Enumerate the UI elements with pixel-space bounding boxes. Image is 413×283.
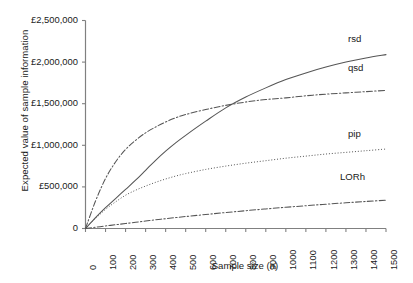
chart-figure: Expected value of sample information 0£5… <box>0 0 413 283</box>
series-line-rsd <box>86 55 387 229</box>
x-tick-label: 100 <box>109 255 118 270</box>
series-label-qsd: qsd <box>348 62 363 73</box>
series-line-qsd <box>86 90 387 228</box>
axis-lines <box>86 21 387 229</box>
x-tick-label: 200 <box>129 255 138 270</box>
x-axis-tick-labels: 0100200300400500600700800900100011001200… <box>0 234 413 282</box>
series-line-pip <box>86 149 387 228</box>
x-tick-label: 1500 <box>390 250 399 270</box>
series-label-LORh: LORh <box>340 171 365 182</box>
data-series-curves <box>86 55 387 229</box>
x-axis-title: Sample size (n) <box>150 260 340 271</box>
series-label-rsd: rsd <box>348 33 361 44</box>
x-tick-label: 0 <box>89 265 98 270</box>
x-tick-label: 1300 <box>350 250 359 270</box>
tick-marks <box>82 21 386 233</box>
series-label-pip: pip <box>348 128 361 139</box>
series-line-LORh <box>86 200 387 228</box>
x-tick-label: 1400 <box>370 250 379 270</box>
